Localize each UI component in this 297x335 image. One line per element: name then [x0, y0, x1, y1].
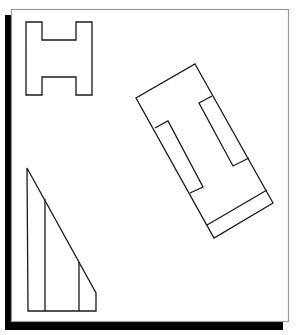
panel-shadow-bottom [5, 321, 283, 330]
panel [12, 10, 289, 322]
diagram-canvas [0, 0, 297, 335]
diagram-stage [0, 0, 297, 335]
